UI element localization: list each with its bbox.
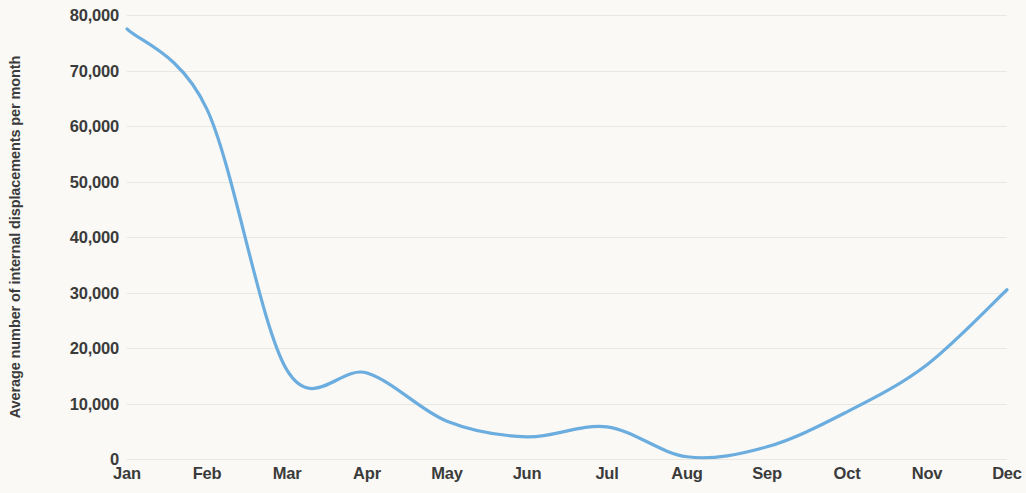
x-tick-label: May <box>412 464 482 482</box>
x-tick-label: Oct <box>812 464 882 482</box>
y-tick-label: 50,000 <box>27 173 119 190</box>
y-tick-label: 40,000 <box>27 229 119 246</box>
x-tick-label: Feb <box>172 464 242 482</box>
y-tick-label: 60,000 <box>27 118 119 135</box>
y-tick-label: 80,000 <box>27 7 119 24</box>
x-tick-label: Jul <box>572 464 642 482</box>
series-path-displacements <box>127 29 1007 458</box>
x-tick-label: Mar <box>252 464 322 482</box>
y-tick-label: 30,000 <box>27 284 119 301</box>
data-line-series <box>127 15 1007 459</box>
y-tick-label: 20,000 <box>27 340 119 357</box>
y-axis-tick-labels: 010,00020,00030,00040,00050,00060,00070,… <box>20 15 119 459</box>
plot-area <box>127 15 1007 459</box>
x-axis-tick-labels: JanFebMarAprMayJunJulAugSepOctNovDec <box>127 464 1007 490</box>
gridline <box>127 459 1007 460</box>
x-tick-label: Apr <box>332 464 402 482</box>
x-tick-label: Jun <box>492 464 562 482</box>
x-tick-label: Aug <box>652 464 722 482</box>
y-tick-label: 10,000 <box>27 395 119 412</box>
x-tick-label: Dec <box>972 464 1026 482</box>
x-tick-label: Sep <box>732 464 802 482</box>
y-tick-label: 70,000 <box>27 62 119 79</box>
x-tick-label: Jan <box>92 464 162 482</box>
x-tick-label: Nov <box>892 464 962 482</box>
